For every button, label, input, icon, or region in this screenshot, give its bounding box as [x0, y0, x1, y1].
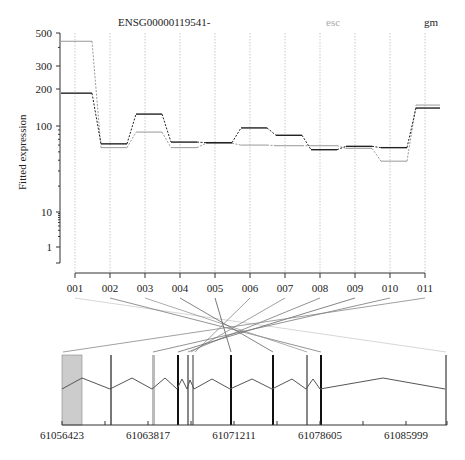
- xtick-006: 006: [242, 282, 259, 294]
- xtick-010: 010: [382, 282, 399, 294]
- exon-11: [445, 355, 447, 425]
- gene-axis-tick: 61063817: [126, 429, 171, 441]
- xtick-008: 008: [312, 282, 329, 294]
- exon-7: [230, 355, 232, 425]
- y-axis: 500 300 200 100 10 1 Fitted expression: [16, 27, 60, 263]
- ytick-200: 200: [36, 83, 53, 95]
- gene-structure: 6105642361063817610712116107860561085999: [40, 355, 447, 441]
- exon-4: [177, 355, 179, 425]
- ytick-10: 10: [41, 206, 53, 218]
- chart: ENSG00000119541- esc gm 500 300 200 100 …: [0, 0, 465, 460]
- exon-9: [306, 355, 308, 425]
- xtick-001: 001: [67, 282, 84, 294]
- intron-path: [62, 378, 445, 389]
- exon-connectors: [63, 298, 446, 352]
- x-axis: 001002003004005006007008009010011: [67, 273, 433, 294]
- series-lines: [61, 41, 440, 161]
- exon-1: [62, 355, 82, 425]
- gene-axis-tick: 61085999: [384, 429, 429, 441]
- xtick-002: 002: [102, 282, 119, 294]
- gene-axis-tick: 61078605: [298, 429, 343, 441]
- y-axis-label: Fitted expression: [16, 114, 28, 190]
- exon-6: [192, 355, 194, 425]
- exon-3: [152, 355, 155, 425]
- legend-gm: gm: [424, 16, 439, 28]
- xtick-011: 011: [417, 282, 433, 294]
- ytick-100: 100: [36, 120, 53, 132]
- exon-8: [272, 355, 274, 425]
- chart-title: ENSG00000119541-: [118, 16, 211, 28]
- gridlines: [75, 33, 425, 273]
- gene-axis-tick: 61056423: [40, 429, 85, 441]
- legend-esc: esc: [326, 16, 340, 28]
- ytick-1: 1: [47, 241, 53, 253]
- exon-10: [320, 355, 322, 425]
- exon-5: [187, 355, 189, 425]
- ytick-500: 500: [36, 27, 53, 39]
- xtick-007: 007: [277, 282, 294, 294]
- xtick-009: 009: [347, 282, 364, 294]
- xtick-004: 004: [172, 282, 189, 294]
- ytick-300: 300: [36, 60, 53, 72]
- xtick-003: 003: [137, 282, 154, 294]
- xtick-005: 005: [207, 282, 224, 294]
- gene-axis-tick: 61071211: [212, 429, 256, 441]
- exon-2: [110, 355, 112, 425]
